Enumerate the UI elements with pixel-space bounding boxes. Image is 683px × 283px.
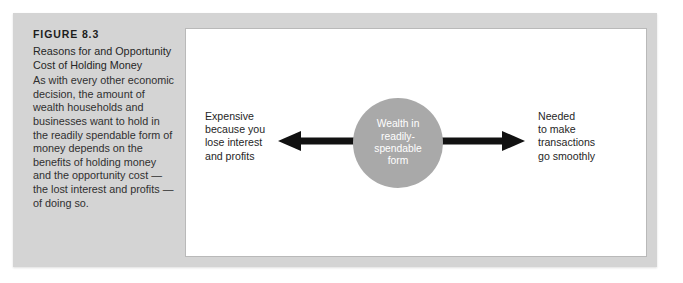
figure-container: FIGURE 8.3 Reasons for and Opportunity C… — [0, 0, 683, 283]
figure-number: FIGURE 8.3 — [33, 27, 175, 41]
figure-caption: FIGURE 8.3 Reasons for and Opportunity C… — [33, 27, 175, 210]
right-branch-label: Needed to make transactions go smoothly — [538, 110, 638, 163]
center-node-circle: Wealth in readily- spendable form — [353, 98, 443, 188]
center-node-label: Wealth in readily- spendable form — [369, 118, 427, 168]
figure-title: Reasons for and Opportunity Cost of Hold… — [33, 45, 175, 72]
figure-body-text: As with every other economic decision, t… — [33, 74, 175, 210]
left-branch-label: Expensive because you lose interest and … — [205, 110, 287, 163]
